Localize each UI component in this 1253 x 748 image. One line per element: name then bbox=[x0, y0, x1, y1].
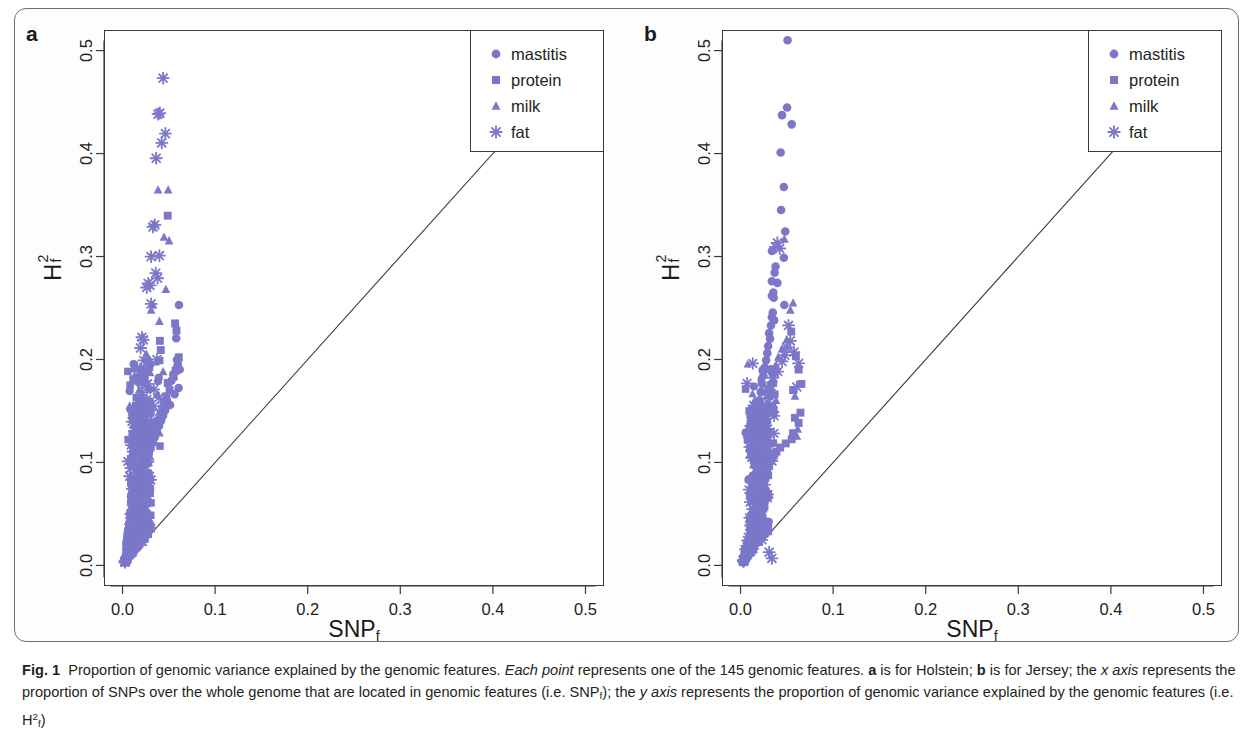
caption-italic-y-axis: y axis bbox=[640, 684, 677, 700]
caption-bold-b: b bbox=[977, 662, 986, 678]
panel-a-x-axis-label: SNPf bbox=[104, 616, 604, 644]
svg-text:0.5: 0.5 bbox=[77, 39, 95, 62]
svg-text:0.1: 0.1 bbox=[77, 451, 95, 474]
svg-text:0.3: 0.3 bbox=[77, 245, 95, 268]
svg-text:0.2: 0.2 bbox=[695, 348, 713, 371]
caption-part-2: represents one of the 145 genomic featur… bbox=[574, 662, 869, 678]
circle-marker-icon bbox=[485, 43, 507, 65]
panel-b: b 0.00.10.20.30.40.50.00.10.20.30.40.5 m… bbox=[632, 8, 1246, 640]
legend-label-mastitis: mastitis bbox=[511, 41, 567, 67]
svg-text:0.1: 0.1 bbox=[695, 451, 713, 474]
caption-italic-each-point: Each point bbox=[505, 662, 574, 678]
svg-text:0.0: 0.0 bbox=[695, 554, 713, 577]
panel-b-y-axis-label: H2f bbox=[655, 248, 684, 288]
panel-b-plot-area: mastitis protein milk fat bbox=[722, 30, 1222, 586]
legend-label-milk: milk bbox=[511, 93, 540, 119]
svg-text:0.0: 0.0 bbox=[77, 554, 95, 577]
legend-label-fat: fat bbox=[511, 119, 529, 145]
panel-a-y-axis-label: H2f bbox=[37, 248, 66, 288]
panel-b-x-axis-label: SNPf bbox=[722, 616, 1222, 644]
legend-label-protein: protein bbox=[1129, 67, 1179, 93]
caption-figure-label: Fig. 1 bbox=[22, 662, 60, 678]
caption-italic-x-axis: x axis bbox=[1101, 662, 1138, 678]
legend-item-milk[interactable]: milk bbox=[1103, 93, 1221, 119]
panel-b-legend: mastitis protein milk fat bbox=[1088, 31, 1221, 152]
legend-item-protein[interactable]: protein bbox=[485, 67, 603, 93]
series-fat bbox=[120, 73, 171, 568]
legend-item-mastitis[interactable]: mastitis bbox=[1103, 41, 1221, 67]
triangle-marker-icon bbox=[485, 95, 507, 117]
panel-a-letter: a bbox=[26, 22, 38, 46]
legend-label-milk: milk bbox=[1129, 93, 1158, 119]
svg-text:0.4: 0.4 bbox=[77, 142, 95, 165]
figure-caption: Fig. 1 Proportion of genomic variance ex… bbox=[22, 660, 1237, 735]
svg-text:0.4: 0.4 bbox=[695, 142, 713, 165]
series-milk bbox=[121, 185, 174, 566]
asterisk-marker-icon bbox=[1103, 121, 1125, 143]
caption-part-4: is for Jersey; the bbox=[986, 662, 1101, 678]
circle-marker-icon bbox=[1103, 43, 1125, 65]
svg-text:0.2: 0.2 bbox=[77, 348, 95, 371]
data-points bbox=[738, 36, 806, 567]
legend-item-milk[interactable]: milk bbox=[485, 93, 603, 119]
figure-root: a 0.00.10.20.30.40.50.00.10.20.30.40.5 m… bbox=[0, 0, 1253, 748]
triangle-marker-icon bbox=[1103, 95, 1125, 117]
legend-item-fat[interactable]: fat bbox=[485, 119, 603, 145]
square-marker-icon bbox=[485, 69, 507, 91]
panel-a: a 0.00.10.20.30.40.50.00.10.20.30.40.5 m… bbox=[14, 8, 628, 640]
caption-part-8: ) bbox=[41, 712, 46, 728]
square-marker-icon bbox=[1103, 69, 1125, 91]
panel-a-plot-area: mastitis protein milk fat bbox=[104, 30, 604, 586]
asterisk-marker-icon bbox=[485, 121, 507, 143]
legend-label-fat: fat bbox=[1129, 119, 1147, 145]
caption-part-6: ); the bbox=[602, 684, 639, 700]
series-fat bbox=[738, 237, 805, 567]
legend-label-protein: protein bbox=[511, 67, 561, 93]
svg-text:0.3: 0.3 bbox=[695, 245, 713, 268]
legend-item-fat[interactable]: fat bbox=[1103, 119, 1221, 145]
legend-label-mastitis: mastitis bbox=[1129, 41, 1185, 67]
legend-item-mastitis[interactable]: mastitis bbox=[485, 41, 603, 67]
panel-b-letter: b bbox=[644, 22, 657, 46]
legend-item-protein[interactable]: protein bbox=[1103, 67, 1221, 93]
panel-a-legend: mastitis protein milk fat bbox=[470, 31, 603, 152]
svg-text:0.5: 0.5 bbox=[695, 39, 713, 62]
data-points bbox=[120, 73, 184, 568]
caption-part-3: is for Holstein; bbox=[876, 662, 977, 678]
caption-part-1: Proportion of genomic variance explained… bbox=[68, 662, 504, 678]
